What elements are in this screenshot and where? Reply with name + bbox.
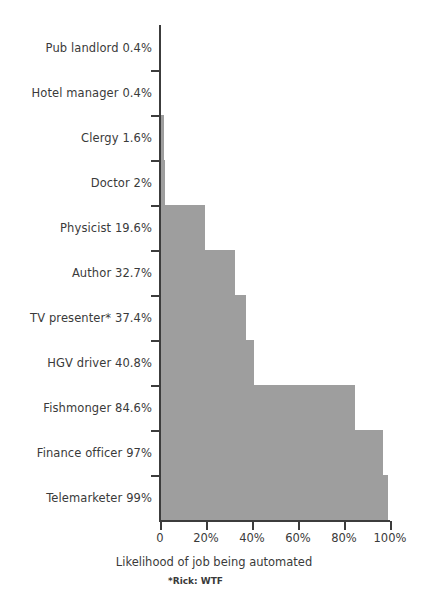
category-label: Doctor 2% xyxy=(0,177,152,189)
bar xyxy=(160,205,205,250)
x-axis-tick-label: 60% xyxy=(285,531,311,545)
category-label: Hotel manager 0.4% xyxy=(0,87,152,99)
y-axis-tick xyxy=(151,340,160,342)
y-axis-tick xyxy=(151,115,160,117)
category-label: Fishmonger 84.6% xyxy=(0,402,152,414)
bar-chart: Pub landlord 0.4%Hotel manager 0.4%Clerg… xyxy=(0,0,428,609)
bar xyxy=(160,430,383,475)
x-axis-tick-label: 0 xyxy=(156,531,163,545)
y-axis-tick xyxy=(151,385,160,387)
category-label: Pub landlord 0.4% xyxy=(0,42,152,54)
x-axis-tick xyxy=(206,521,208,530)
category-axis-labels: Pub landlord 0.4%Hotel manager 0.4%Clerg… xyxy=(0,25,152,520)
x-axis-tick xyxy=(390,521,392,530)
category-label: Telemarketer 99% xyxy=(0,492,152,504)
category-label: TV presenter* 37.4% xyxy=(0,312,152,324)
bar xyxy=(160,250,235,295)
x-axis-tick-label: 40% xyxy=(239,531,265,545)
y-axis-tick xyxy=(151,160,160,162)
bar xyxy=(160,385,355,430)
bar xyxy=(160,160,165,205)
y-axis-line xyxy=(159,25,161,521)
category-label: HGV driver 40.8% xyxy=(0,357,152,369)
plot-area xyxy=(160,25,390,520)
category-label: Author 32.7% xyxy=(0,267,152,279)
category-label: Finance officer 97% xyxy=(0,447,152,459)
x-axis-tick xyxy=(252,521,254,530)
x-axis-tick-label: 100% xyxy=(374,531,407,545)
x-axis-line xyxy=(159,520,390,522)
y-axis-tick xyxy=(151,205,160,207)
category-label: Clergy 1.6% xyxy=(0,132,152,144)
x-axis-tick xyxy=(160,521,162,530)
bar xyxy=(160,115,164,160)
y-axis-tick xyxy=(151,250,160,252)
y-axis-tick xyxy=(151,475,160,477)
chart-footnote: *Rick: WTF xyxy=(168,576,223,586)
x-axis-tick-label: 80% xyxy=(331,531,357,545)
category-label: Physicist 19.6% xyxy=(0,222,152,234)
bar xyxy=(160,295,246,340)
x-axis-tick-label: 20% xyxy=(193,531,219,545)
y-axis-tick xyxy=(151,430,160,432)
x-axis-title: Likelihood of job being automated xyxy=(0,555,428,569)
x-axis-tick xyxy=(344,521,346,530)
bar xyxy=(160,475,388,520)
y-axis-tick xyxy=(151,295,160,297)
bar xyxy=(160,340,254,385)
x-axis-tick xyxy=(298,521,300,530)
y-axis-tick xyxy=(151,70,160,72)
